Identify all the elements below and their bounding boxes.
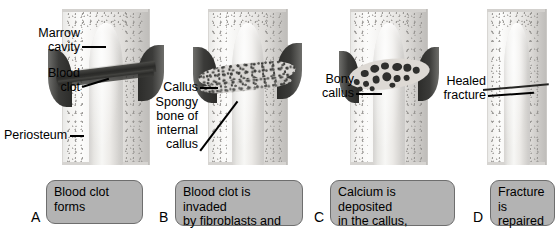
bony-callus-leader-line [356, 93, 382, 95]
healed-fracture-label: Healed fracture [412, 74, 486, 102]
spongy-bone-label: Spongy bone of internal callus [130, 95, 198, 151]
fracture-repair-figure: Marrow cavity Blood clot Periosteum Bloo… [0, 0, 558, 231]
trabecula [363, 81, 370, 88]
trabecula [393, 75, 401, 83]
bone-illustration-d [487, 9, 545, 165]
caption-a: Blood clot forms [46, 180, 143, 224]
trabecula [382, 72, 392, 82]
panel-letter-a: A [31, 209, 40, 225]
panel-letter-b: B [159, 209, 168, 225]
bony-callus-label: Bony callus [296, 72, 354, 100]
trabecula [360, 69, 369, 77]
periosteum-leader-line [70, 135, 84, 137]
periosteum-label: Periosteum [4, 128, 67, 142]
trabecula [392, 62, 403, 71]
caption-d: Fracture is repaired [490, 180, 555, 226]
blood-clot-label: Blood clot [14, 66, 80, 94]
panel-letter-d: D [473, 209, 483, 225]
caption-b: Blood clot is invaded by fibroblasts and… [175, 180, 303, 226]
trabecula [381, 62, 390, 70]
marrow-cavity-label: Marrow cavity [8, 26, 80, 54]
trabecula [372, 75, 380, 84]
bone-illustration-b [208, 9, 286, 165]
periosteum-texture-right [529, 13, 542, 163]
callus-leader-line [200, 87, 218, 89]
trabecula [403, 63, 412, 72]
callus-label: Callus [138, 80, 198, 94]
caption-c: Calcium is deposited in the callus, join… [330, 180, 455, 226]
trabecula [412, 66, 420, 74]
trabecula [370, 64, 380, 73]
trabecula [353, 79, 360, 86]
marrow-cavity-region [89, 23, 123, 165]
marrow-cavity-region [232, 23, 264, 165]
marrow-cavity-leader-line [82, 46, 106, 48]
marrow-highlight [232, 23, 264, 165]
panel-letter-c: C [314, 209, 324, 225]
trabecula [389, 82, 396, 88]
marrow-highlight [89, 23, 123, 165]
trabecula [403, 75, 410, 82]
